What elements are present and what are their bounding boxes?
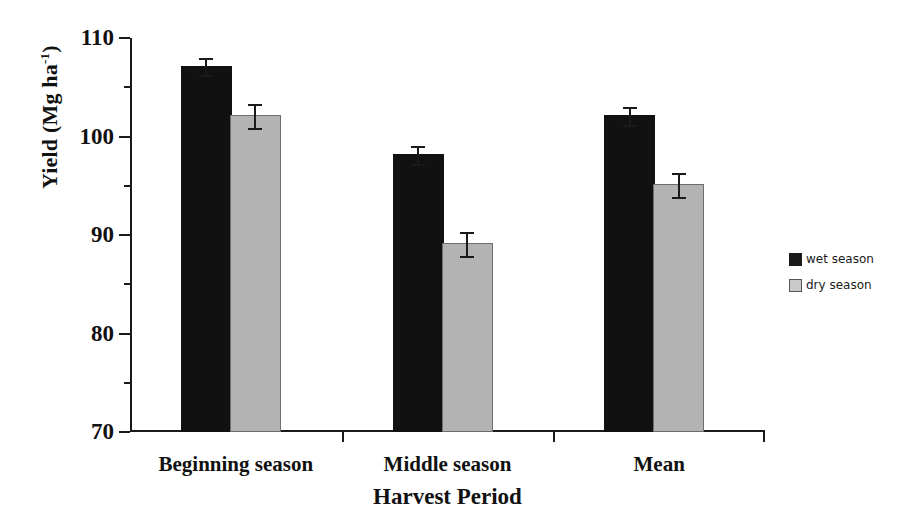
x-category-label: Mean: [633, 452, 684, 477]
y-tick-minor: [124, 382, 130, 384]
error-bar-cap-bottom: [411, 164, 425, 166]
chart-legend: wet seasondry season: [789, 252, 874, 304]
x-category-label: Middle season: [384, 452, 512, 477]
error-bar-cap-bottom: [623, 125, 637, 127]
error-bar: [417, 146, 419, 166]
y-tick-minor: [124, 185, 130, 187]
bar-dry-season: [653, 184, 704, 432]
error-bar: [205, 58, 207, 78]
y-tick-minor: [124, 86, 130, 88]
y-tick-major: [119, 333, 130, 335]
error-bar-cap-bottom: [672, 197, 686, 199]
x-tick-end: [763, 432, 765, 442]
legend-item: dry season: [789, 278, 874, 292]
plot-area: 708090100110: [130, 38, 765, 432]
legend-swatch-wet-season: [789, 253, 802, 266]
bar-wet-season: [181, 66, 232, 432]
error-bar-cap-bottom: [248, 128, 262, 130]
y-axis-title-superscript: -1: [37, 53, 52, 64]
y-axis-title: Yield (Mg ha-1): [37, 0, 63, 262]
y-tick-label: 90: [91, 222, 114, 248]
x-category-label: Beginning season: [159, 452, 314, 477]
error-bar-cap-bottom: [460, 256, 474, 258]
y-tick-label: 70: [91, 419, 114, 445]
y-axis-title-text: Yield (Mg ha: [37, 64, 62, 189]
x-tick: [553, 432, 555, 442]
bar-dry-season: [442, 243, 493, 432]
error-bar: [254, 104, 256, 130]
y-tick-major: [119, 37, 130, 39]
x-axis-title: Harvest Period: [130, 484, 765, 510]
y-tick-label: 100: [80, 124, 115, 150]
error-bar-cap-top: [460, 232, 474, 234]
error-bar-cap-top: [672, 173, 686, 175]
bar-chart-figure: Yield (Mg ha-1) 708090100110 Beginning s…: [0, 0, 901, 519]
error-bar-cap-top: [411, 146, 425, 148]
error-bar-cap-top: [248, 104, 262, 106]
y-axis-title-close: ): [37, 45, 62, 53]
legend-label: dry season: [806, 278, 872, 292]
y-tick-major: [119, 234, 130, 236]
y-tick-major: [119, 136, 130, 138]
error-bar-cap-top: [623, 107, 637, 109]
bar-wet-season: [604, 115, 655, 432]
legend-item: wet season: [789, 252, 874, 266]
bar-wet-season: [393, 154, 444, 432]
y-tick-label: 110: [81, 25, 114, 51]
error-bar-cap-bottom: [199, 75, 213, 77]
y-tick-major: [119, 431, 130, 433]
x-tick: [342, 432, 344, 442]
bar-dry-season: [230, 115, 281, 432]
error-bar: [629, 107, 631, 127]
legend-swatch-dry-season: [789, 279, 802, 292]
y-tick-minor: [124, 283, 130, 285]
error-bar: [678, 173, 680, 199]
legend-label: wet season: [806, 252, 874, 266]
error-bar: [466, 232, 468, 258]
y-axis-line: [130, 38, 132, 432]
error-bar-cap-top: [199, 58, 213, 60]
y-tick-label: 80: [91, 321, 114, 347]
